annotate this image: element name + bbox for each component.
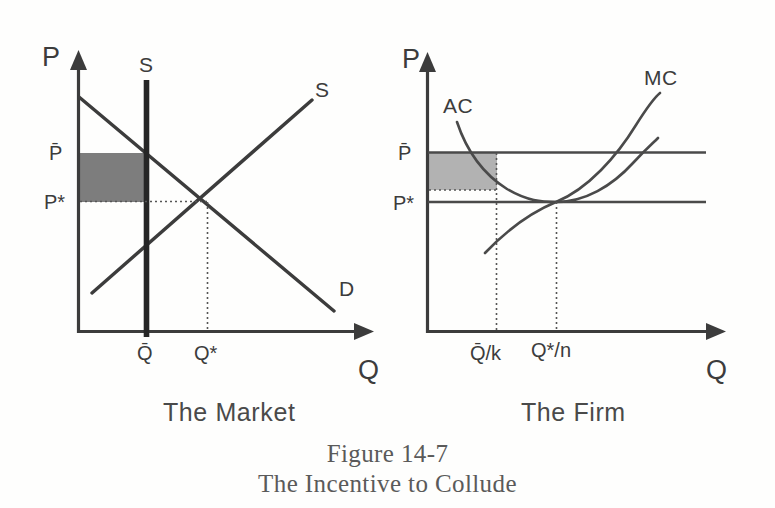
firm-panel: P Q AC MC P̄ P* Q̄/k Q*/n bbox=[393, 44, 727, 385]
market-y-axis-arrow-icon bbox=[70, 50, 87, 70]
firm-y-axis-label: P bbox=[402, 44, 420, 74]
figure-container: P Q S S D P̄ P* Q̄ Q* bbox=[0, 0, 775, 508]
figure-number-caption: Figure 14-7 bbox=[0, 440, 775, 468]
firm-x-axis-label: Q bbox=[706, 355, 727, 385]
panel-title-market: The Market bbox=[163, 398, 295, 427]
market-price-tick-pbar: P̄ bbox=[49, 142, 62, 164]
firm-price-tick-pstar: P* bbox=[393, 192, 414, 214]
market-quantity-tick-qstar: Q* bbox=[194, 342, 218, 364]
market-demand-curve bbox=[79, 97, 334, 311]
market-y-axis-label: P bbox=[42, 42, 60, 72]
market-price-tick-pstar: P* bbox=[44, 191, 65, 213]
firm-marginal-cost-label: MC bbox=[644, 66, 677, 89]
panel-title-firm: The Firm bbox=[521, 398, 626, 427]
firm-quantity-tick-qstar-n: Q*/n bbox=[531, 339, 571, 361]
firm-x-axis-arrow-icon bbox=[706, 323, 726, 340]
economics-diagram: P Q S S D P̄ P* Q̄ Q* bbox=[0, 0, 775, 508]
figure-title-caption: The Incentive to Collude bbox=[0, 470, 775, 498]
market-collusion-profit-shading bbox=[80, 153, 146, 202]
firm-price-tick-pbar: P̄ bbox=[398, 142, 411, 164]
market-cartel-supply-label: S bbox=[139, 53, 153, 76]
market-supply-label: S bbox=[315, 78, 329, 101]
firm-quantity-tick-qbar-k: Q̄/k bbox=[470, 342, 502, 364]
market-quantity-tick-qbar: Q̄ bbox=[137, 342, 153, 364]
market-panel: P Q S S D P̄ P* Q̄ Q* bbox=[42, 42, 379, 385]
market-x-axis-label: Q bbox=[358, 355, 379, 385]
firm-average-cost-label: AC bbox=[443, 94, 473, 117]
market-x-axis-arrow-icon bbox=[354, 323, 374, 340]
firm-y-axis-arrow-icon bbox=[419, 52, 436, 72]
market-demand-label: D bbox=[339, 277, 355, 300]
firm-marginal-cost-curve bbox=[485, 93, 660, 253]
